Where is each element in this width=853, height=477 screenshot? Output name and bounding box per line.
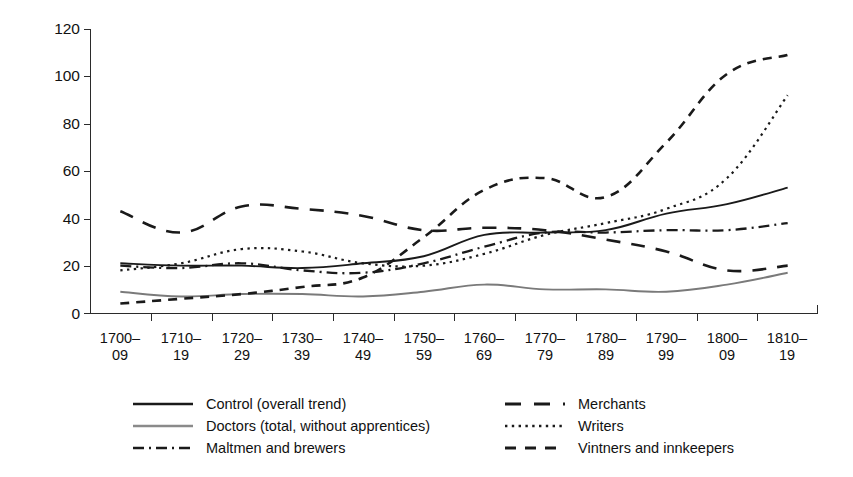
x-label-1790-99: 1790– 99 — [635, 330, 697, 364]
legend-item-vintners[interactable]: Vintners and innkeepers — [504, 437, 822, 459]
chart-root: 120 100 80 60 40 20 0 1700– 09 1710– 19 — [0, 0, 853, 477]
legend-label-merchants: Merchants — [578, 396, 646, 412]
legend-swatch-merchants-longdash-line-icon — [504, 397, 566, 411]
x-label-top: 1720– — [211, 330, 273, 347]
legend-swatch-maltmen-dashdot-line-icon — [132, 441, 194, 455]
x-label-top: 1710– — [150, 330, 212, 347]
y-axis-labels: 120 100 80 60 40 20 0 — [0, 0, 80, 340]
x-label-bottom: 99 — [635, 347, 697, 364]
legend-swatch-doctors-gray-line-icon — [132, 419, 194, 433]
x-label-bottom: 39 — [271, 347, 333, 364]
x-label-1750-59: 1750– 59 — [393, 330, 455, 364]
y-tick-label-0: 0 — [36, 306, 80, 322]
legend-item-maltmen[interactable]: Maltmen and brewers — [132, 437, 492, 459]
y-tick-label-100: 100 — [36, 68, 80, 84]
legend-item-control[interactable]: Control (overall trend) — [132, 393, 492, 415]
x-label-bottom: 09 — [696, 347, 758, 364]
legend-swatch-writers-dotted-line-icon — [504, 419, 566, 433]
x-label-top: 1740– — [332, 330, 394, 347]
x-tick-7 — [515, 313, 516, 321]
x-tick-4 — [333, 313, 334, 321]
x-tick-11 — [757, 313, 758, 321]
series-line-merchants — [120, 205, 787, 272]
x-tick-8 — [576, 313, 577, 321]
legend-item-writers[interactable]: Writers — [504, 415, 822, 437]
x-label-bottom: 69 — [453, 347, 515, 364]
x-tick-9 — [636, 313, 637, 321]
chart-legend: Control (overall trend) Doctors (total, … — [132, 393, 822, 463]
legend-swatch-control-solid-line-icon — [132, 397, 194, 411]
x-label-top: 1810– — [756, 330, 818, 347]
y-tick-label-40: 40 — [36, 211, 80, 227]
x-label-bottom: 19 — [150, 347, 212, 364]
x-tick-6 — [454, 313, 455, 321]
x-tick-2 — [212, 313, 213, 321]
x-label-top: 1780– — [575, 330, 637, 347]
y-tick-label-120: 120 — [36, 21, 80, 37]
legend-label-control: Control (overall trend) — [206, 396, 346, 412]
x-label-bottom: 89 — [575, 347, 637, 364]
x-label-top: 1750– — [393, 330, 455, 347]
x-label-top: 1700– — [89, 330, 151, 347]
x-label-bottom: 59 — [393, 347, 455, 364]
x-label-top: 1730– — [271, 330, 333, 347]
legend-item-doctors[interactable]: Doctors (total, without apprentices) — [132, 415, 492, 437]
y-tick-label-20: 20 — [36, 258, 80, 274]
legend-column-left: Control (overall trend) Doctors (total, … — [132, 393, 492, 459]
x-tick-5 — [394, 313, 395, 321]
legend-label-maltmen: Maltmen and brewers — [206, 440, 345, 456]
x-label-1740-49: 1740– 49 — [332, 330, 394, 364]
series-line-writers — [120, 95, 787, 270]
y-tick-label-80: 80 — [36, 116, 80, 132]
legend-swatch-vintners-dashed-line-icon — [504, 441, 566, 455]
x-label-1780-89: 1780– 89 — [575, 330, 637, 364]
x-label-1710-19: 1710– 19 — [150, 330, 212, 364]
x-label-top: 1800– — [696, 330, 758, 347]
x-label-top: 1770– — [514, 330, 576, 347]
x-label-top: 1760– — [453, 330, 515, 347]
x-label-top: 1790– — [635, 330, 697, 347]
legend-label-doctors: Doctors (total, without apprentices) — [206, 418, 430, 434]
series-line-doctors-total-without-apprentices — [120, 273, 787, 297]
legend-column-right: Merchants Writers Vintners and innkeeper… — [504, 393, 822, 459]
x-label-1730-39: 1730– 39 — [271, 330, 333, 364]
x-label-bottom: 09 — [89, 347, 151, 364]
x-label-bottom: 79 — [514, 347, 576, 364]
series-line-control-overall-trend — [120, 188, 787, 269]
legend-label-writers: Writers — [578, 418, 624, 434]
x-label-1810-19: 1810– 19 — [756, 330, 818, 364]
x-label-1800-09: 1800– 09 — [696, 330, 758, 364]
x-label-bottom: 49 — [332, 347, 394, 364]
x-label-bottom: 19 — [756, 347, 818, 364]
y-tick-label-60: 60 — [36, 163, 80, 179]
x-tick-10 — [697, 313, 698, 321]
x-tick-3 — [272, 313, 273, 321]
x-label-1700-09: 1700– 09 — [89, 330, 151, 364]
x-label-bottom: 29 — [211, 347, 273, 364]
series-layer — [90, 29, 818, 313]
x-label-1760-69: 1760– 69 — [453, 330, 515, 364]
legend-label-vintners: Vintners and innkeepers — [578, 440, 734, 456]
legend-item-merchants[interactable]: Merchants — [504, 393, 822, 415]
x-tick-1 — [151, 313, 152, 321]
x-label-1770-79: 1770– 79 — [514, 330, 576, 364]
x-label-1720-29: 1720– 29 — [211, 330, 273, 364]
plot-area — [90, 29, 818, 313]
